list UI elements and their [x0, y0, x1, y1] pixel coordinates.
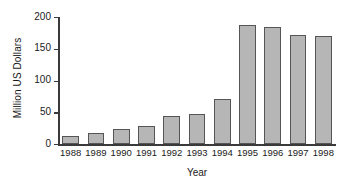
x-axis-tick-label: 1994 — [210, 147, 235, 159]
x-axis-tick-label: 1989 — [83, 147, 108, 159]
y-axis-tick: 150 — [54, 49, 58, 50]
bar — [214, 99, 231, 144]
bar — [290, 35, 307, 144]
x-axis-tick-label: 1992 — [159, 147, 184, 159]
x-axis-tick-labels: 1988198919901991199219931994199519961997… — [58, 147, 336, 161]
bar — [315, 36, 332, 144]
y-axis-tick: 0 — [54, 144, 58, 145]
bar — [264, 27, 281, 144]
y-axis-tick-label: 0 — [45, 138, 51, 150]
bar — [88, 133, 105, 144]
bar — [138, 126, 155, 144]
x-axis-tick-label: 1995 — [235, 147, 260, 159]
y-axis-line — [58, 17, 60, 144]
x-axis-tick-label: 1988 — [58, 147, 83, 159]
y-axis-title: Million US Dollars — [9, 13, 27, 143]
x-axis-title: Year — [58, 167, 336, 179]
x-axis-tick-label: 1996 — [260, 147, 285, 159]
x-axis-tick-label: 1991 — [134, 147, 159, 159]
bar-chart: Million US Dollars 050100150200 19881989… — [0, 0, 349, 186]
y-axis-tick-label: 100 — [34, 74, 51, 86]
y-axis-tick-label: 50 — [40, 106, 51, 118]
x-axis-tick-label: 1990 — [109, 147, 134, 159]
bar — [62, 136, 79, 144]
y-axis-tick-label: 150 — [34, 42, 51, 54]
x-axis-tick-label: 1997 — [285, 147, 310, 159]
y-axis-tick: 100 — [54, 81, 58, 82]
bar — [113, 129, 130, 144]
y-axis-tick-label: 200 — [34, 11, 51, 23]
x-axis-tick-label: 1998 — [311, 147, 336, 159]
plot-area: 050100150200 — [58, 14, 336, 144]
x-axis-line — [58, 144, 336, 146]
x-axis-tick-label: 1993 — [184, 147, 209, 159]
bar — [239, 25, 256, 144]
y-axis-tick: 200 — [54, 17, 58, 18]
bar — [189, 114, 206, 144]
bar — [163, 116, 180, 144]
y-axis-tick: 50 — [54, 112, 58, 113]
